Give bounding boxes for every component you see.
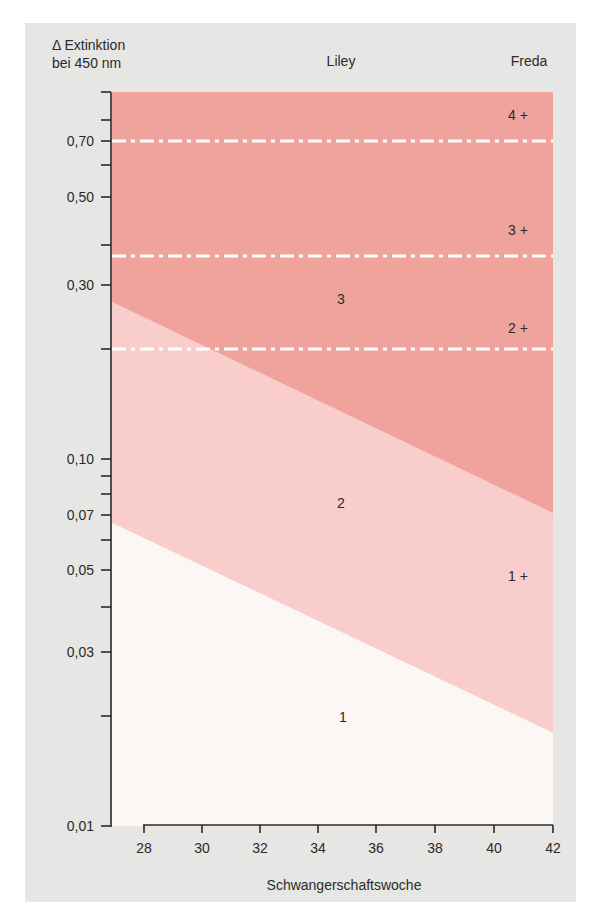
y-tick-label: 0,50 bbox=[67, 189, 94, 205]
y-tick-labels: 0,70 0,50 0,30 0,10 0,07 0,05 0,03 0,01 bbox=[67, 133, 94, 834]
y-tick-label: 0,07 bbox=[67, 507, 94, 523]
x-axis bbox=[143, 825, 553, 833]
x-tick-label: 28 bbox=[136, 840, 152, 856]
y-tick-label: 0,70 bbox=[67, 133, 94, 149]
freda-label-2plus: 2 + bbox=[508, 320, 528, 336]
y-axis-label-line2: bei 450 nm bbox=[52, 55, 121, 71]
y-axis-label-line1: Δ Extinktion bbox=[52, 37, 125, 53]
y-tick-label: 0,05 bbox=[67, 562, 94, 578]
freda-label-4plus: 4 + bbox=[508, 107, 528, 123]
freda-label-3plus: 3 + bbox=[508, 222, 528, 238]
zone-label-2: 2 bbox=[337, 495, 345, 511]
y-tick-label: 0,10 bbox=[67, 451, 94, 467]
x-tick-label: 34 bbox=[310, 840, 326, 856]
chart-svg: Δ Extinktion bei 450 nm Liley Freda 0,70… bbox=[0, 0, 603, 923]
x-tick-labels: 28 30 32 34 36 38 40 42 bbox=[136, 840, 561, 856]
freda-label-1plus: 1 + bbox=[508, 568, 528, 584]
x-tick-label: 38 bbox=[427, 840, 443, 856]
column-header-liley: Liley bbox=[327, 53, 356, 69]
y-tick-label: 0,01 bbox=[67, 818, 94, 834]
x-tick-label: 32 bbox=[252, 840, 268, 856]
x-tick-label: 30 bbox=[194, 840, 210, 856]
x-axis-title: Schwangerschaftswoche bbox=[267, 877, 422, 893]
column-header-freda: Freda bbox=[511, 53, 548, 69]
zone-label-3: 3 bbox=[337, 291, 345, 307]
y-tick-label: 0,30 bbox=[67, 277, 94, 293]
y-axis bbox=[101, 92, 111, 827]
x-tick-label: 40 bbox=[486, 840, 502, 856]
zone-label-1: 1 bbox=[339, 709, 347, 725]
y-tick-label: 0,03 bbox=[67, 644, 94, 660]
x-tick-label: 36 bbox=[368, 840, 384, 856]
x-tick-label: 42 bbox=[545, 840, 561, 856]
